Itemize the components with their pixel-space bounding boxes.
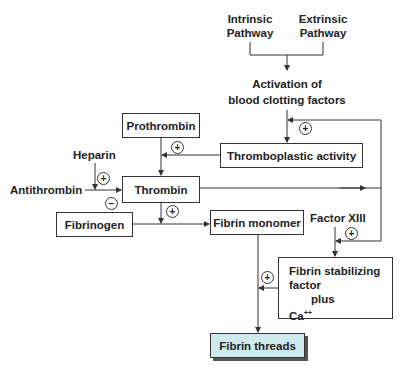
extrinsic-line1: Extrinsic — [294, 12, 352, 26]
stabilizing-line1: Fibrin stabilizing — [289, 264, 392, 278]
stabilizing-line4: Ca++ — [289, 306, 392, 323]
plus-sign-icon: + — [97, 172, 110, 185]
activation-line1: Activation of — [220, 76, 354, 92]
antithrombin-label: Antithrombin — [10, 183, 82, 197]
extrinsic-pathway-label: Extrinsic Pathway — [294, 12, 352, 40]
plus-sign-icon: + — [345, 227, 358, 240]
fibrin-stabilizing-factor-box: Fibrin stabilizing factor plus Ca++ — [278, 257, 393, 319]
calcium-label: Ca — [289, 310, 304, 322]
intrinsic-line1: Intrinsic — [222, 12, 278, 26]
intrinsic-line2: Pathway — [222, 26, 278, 40]
extrinsic-line2: Pathway — [294, 26, 352, 40]
intrinsic-pathway-label: Intrinsic Pathway — [222, 12, 278, 40]
calcium-charge: ++ — [304, 309, 312, 316]
activation-line2: blood clotting factors — [220, 92, 354, 108]
stabilizing-line3: plus — [289, 292, 392, 306]
heparin-label: Heparin — [73, 148, 116, 162]
fibrinogen-box: Fibrinogen — [56, 212, 133, 237]
minus-sign-icon: − — [105, 197, 118, 210]
plus-sign-icon: + — [171, 141, 184, 154]
prothrombin-box: Prothrombin — [122, 113, 200, 138]
factor-xiii-label: Factor XIII — [310, 211, 366, 225]
plus-sign-icon: + — [299, 122, 312, 135]
plus-sign-icon: + — [166, 205, 179, 218]
plus-sign-icon: + — [261, 271, 274, 284]
thromboplastic-activity-box: Thromboplastic activity — [220, 143, 363, 168]
fibrin-monomer-box: Fibrin monomer — [210, 210, 304, 235]
thrombin-box: Thrombin — [122, 176, 200, 203]
activation-label: Activation of blood clotting factors — [220, 76, 354, 108]
stabilizing-line2: factor — [289, 278, 392, 292]
fibrin-threads-box: Fibrin threads — [210, 333, 305, 358]
